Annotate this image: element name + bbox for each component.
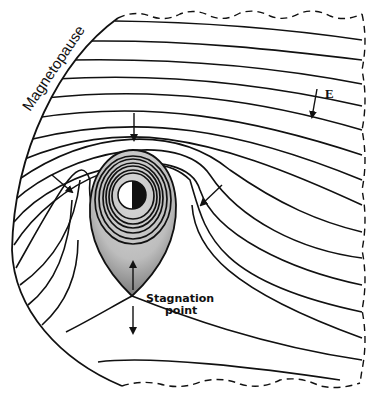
magnetosphere-diagram: Magnetopause E Stagnation point	[0, 0, 380, 397]
right-arrow-icon	[201, 185, 222, 205]
magnetopause-label: Magnetopause	[18, 22, 88, 114]
dashed-boundary-top	[118, 11, 362, 18]
electric-field-label: E	[325, 86, 334, 101]
earth-icon	[118, 181, 146, 209]
dashed-boundary-right	[360, 14, 365, 383]
dashed-boundary-bottom	[122, 379, 360, 388]
e-field-arrow-icon	[312, 89, 317, 117]
field-lines-group	[14, 21, 362, 380]
diagram-svg: Magnetopause E Stagnation point	[0, 0, 380, 397]
stagnation-label-line2: point	[165, 304, 197, 317]
